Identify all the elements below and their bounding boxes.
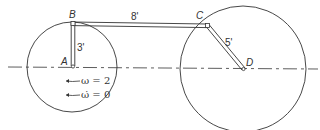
- length-AB: 3': [77, 42, 85, 53]
- pivot-D: [242, 67, 245, 70]
- link-AB: [71, 23, 75, 66]
- omega-dot-condition: ω̇ = 0: [81, 89, 110, 100]
- centerline: [8, 67, 318, 69]
- omega-condition: ω = 2: [81, 75, 110, 86]
- four-bar-linkage-diagram: A B C D 3' 8' 5' ω = 2 ω̇ = 0: [0, 0, 320, 130]
- label-A: A: [60, 56, 68, 67]
- joint-C: [206, 24, 210, 28]
- omega-dot-arrow-icon: [66, 93, 80, 97]
- label-B: B: [69, 9, 76, 20]
- label-C: C: [196, 10, 204, 21]
- omega-arrow-icon: [66, 79, 80, 83]
- label-D: D: [246, 57, 253, 68]
- length-BC: 8': [131, 11, 139, 22]
- length-CD: 5': [225, 37, 233, 48]
- pivot-A: [71, 65, 74, 68]
- joint-B: [71, 22, 75, 26]
